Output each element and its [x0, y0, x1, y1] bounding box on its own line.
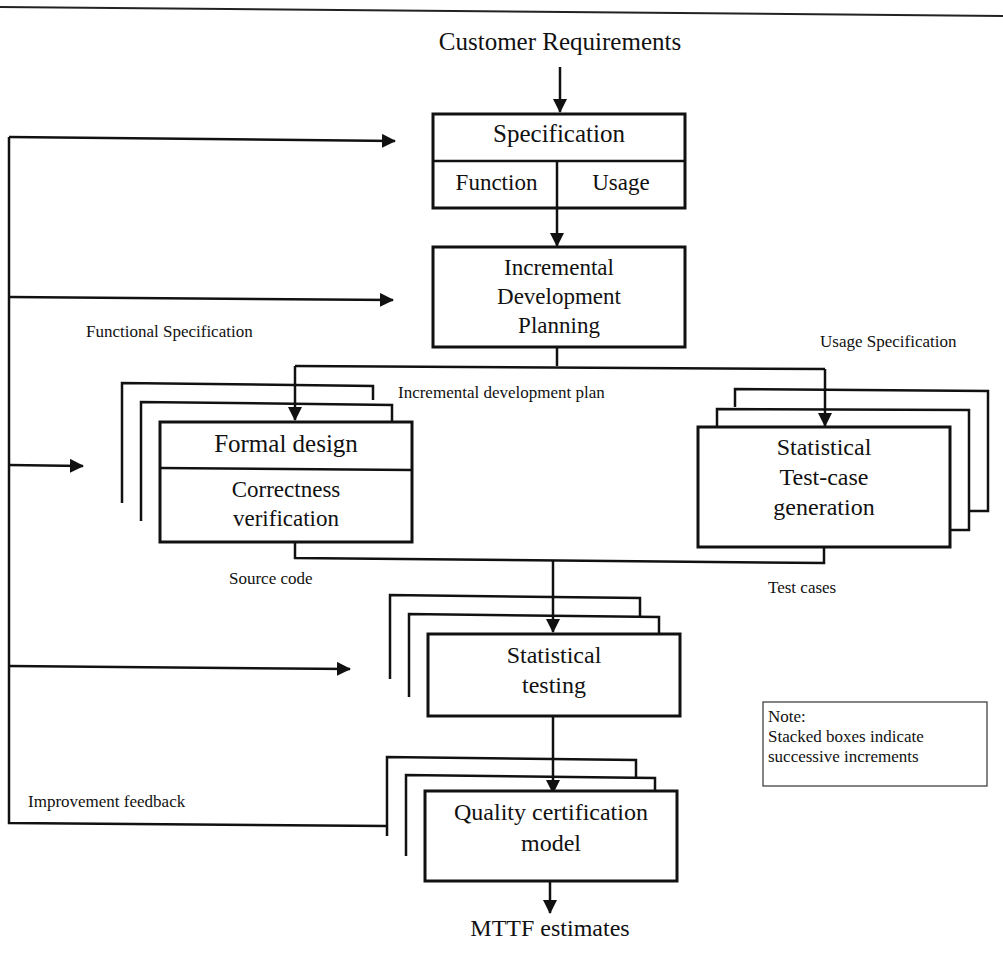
- functional-specification-label: Functional Specification: [86, 322, 253, 342]
- correctness-line2: verification: [160, 506, 412, 532]
- source-code-label: Source code: [229, 569, 313, 589]
- incremental-plan-label: Incremental development plan: [398, 383, 605, 403]
- test-cases-label: Test cases: [768, 578, 836, 598]
- arrow-feedback-to-planning: [9, 297, 393, 300]
- statistical-testing-line1: Statistical: [428, 642, 680, 670]
- statistical-testing-line2: testing: [428, 672, 680, 700]
- note-line2: Stacked boxes indicate: [768, 727, 924, 747]
- mttf-estimates-label: MTTF estimates: [430, 915, 670, 943]
- arrow-feedback-to-formal-design: [9, 465, 83, 466]
- formal-design-title: Formal design: [160, 430, 412, 459]
- note-line3: successive increments: [768, 747, 919, 767]
- top-rule: [0, 7, 1003, 16]
- improvement-feedback-label: Improvement feedback: [28, 792, 185, 812]
- planning-line2: Development: [433, 284, 685, 310]
- customer-requirements-label: Customer Requirements: [430, 28, 690, 57]
- arrow-feedback-to-spec: [9, 137, 395, 141]
- note-line1: Note:: [768, 707, 806, 727]
- function-label: Function: [436, 170, 557, 196]
- test-gen-line1: Statistical: [698, 434, 950, 462]
- quality-cert-line2: model: [425, 830, 677, 858]
- planning-line1: Incremental: [433, 255, 685, 281]
- test-gen-line3: generation: [698, 494, 950, 522]
- test-gen-line2: Test-case: [698, 464, 950, 492]
- specification-title: Specification: [433, 120, 685, 149]
- correctness-line1: Correctness: [160, 477, 412, 503]
- planning-line3: Planning: [433, 313, 685, 339]
- quality-cert-line1: Quality certification: [425, 799, 677, 827]
- usage-label: Usage: [557, 170, 685, 196]
- usage-specification-label: Usage Specification: [820, 332, 956, 352]
- arrow-feedback-to-testing: [9, 666, 350, 669]
